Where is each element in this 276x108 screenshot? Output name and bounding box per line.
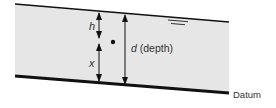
label-h: h — [89, 20, 95, 32]
point-marker — [111, 40, 115, 44]
flow-diagram: h x d (depth) Datum — [0, 0, 276, 108]
label-d-text: (depth) — [137, 42, 173, 54]
label-datum: Datum — [233, 89, 261, 100]
label-x: x — [88, 57, 95, 69]
label-depth: d (depth) — [131, 42, 173, 54]
